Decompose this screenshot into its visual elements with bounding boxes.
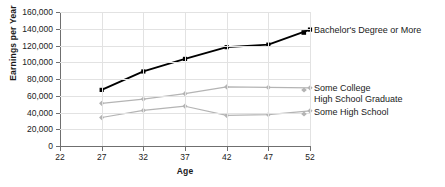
- gridline-vertical: [185, 12, 186, 146]
- y-axis-tick: [56, 12, 60, 13]
- legend-entry: Some High School: [300, 106, 389, 118]
- y-axis-tick-label: 40,000: [27, 108, 53, 118]
- gridline-vertical: [143, 12, 144, 146]
- y-axis-tick: [56, 62, 60, 63]
- y-axis-tick: [56, 113, 60, 114]
- y-axis-tick-label: 100,000: [22, 57, 53, 67]
- gridline-vertical: [102, 12, 103, 146]
- x-axis-tick-label: 37: [180, 152, 189, 162]
- x-axis-title: Age: [60, 166, 310, 176]
- legend-label: High School Graduate: [314, 93, 403, 105]
- earnings-by-age-line-chart: Earnings per Year 020,00040,00060,00080,…: [0, 0, 445, 187]
- y-axis-tick-label: 0: [48, 141, 53, 151]
- y-axis-tick-label: 60,000: [27, 91, 53, 101]
- legend-label: Some High School: [314, 106, 389, 118]
- x-axis-tick-label: 42: [222, 152, 231, 162]
- x-axis-tick: [102, 147, 103, 151]
- gridline-vertical: [227, 12, 228, 146]
- y-axis-tick: [56, 29, 60, 30]
- series-line: [102, 30, 310, 90]
- y-axis-tick-label: 120,000: [22, 41, 53, 51]
- y-axis-tick-label: 140,000: [22, 24, 53, 34]
- legend-diamond-marker-icon: [300, 106, 314, 118]
- x-axis-tick: [185, 147, 186, 151]
- legend-no-marker-spacer: [300, 93, 314, 105]
- x-axis-tick-label: 27: [97, 152, 106, 162]
- x-axis-tick-label: 47: [264, 152, 273, 162]
- chart-legend: Bachelor's Degree or MoreSome CollegeHig…: [300, 0, 445, 187]
- x-axis-tick-label: 32: [139, 152, 148, 162]
- x-axis-tick: [60, 147, 61, 151]
- x-axis-tick-label: 22: [55, 152, 64, 162]
- series-bachelor-s-degree-or-more: [100, 27, 313, 92]
- x-axis-tick: [268, 147, 269, 151]
- y-axis-tick: [56, 79, 60, 80]
- legend-label: Bachelor's Degree or More: [314, 24, 421, 36]
- x-axis-tick: [143, 147, 144, 151]
- x-axis-tick-labels: 22273237424752: [60, 152, 310, 166]
- y-axis-tick: [56, 46, 60, 47]
- gridline-vertical: [268, 12, 269, 146]
- y-axis-tick-label: 160,000: [22, 7, 53, 17]
- y-axis-tick-labels: 020,00040,00060,00080,000100,000120,0001…: [0, 0, 58, 187]
- y-axis-tick-label: 80,000: [27, 74, 53, 84]
- y-axis-tick: [56, 96, 60, 97]
- legend-entry: Bachelor's Degree or More: [300, 24, 421, 36]
- y-axis-tick: [56, 129, 60, 130]
- legend-square-marker-icon: [300, 24, 314, 36]
- legend-entry: High School Graduate: [300, 93, 403, 105]
- y-axis-tick-label: 20,000: [27, 124, 53, 134]
- plot-area: [60, 12, 310, 146]
- x-axis-tick: [227, 147, 228, 151]
